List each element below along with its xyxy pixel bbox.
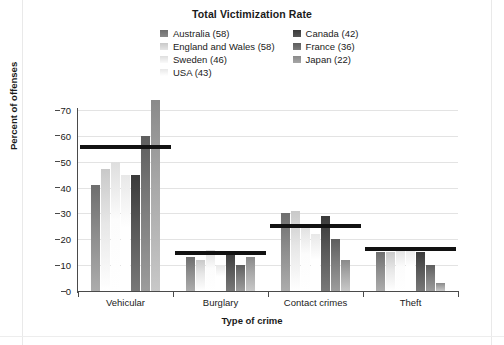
legend-item[interactable]: France (36) — [293, 41, 359, 52]
y-axis-tick-mark — [55, 239, 60, 240]
bar[interactable] — [131, 175, 140, 291]
y-axis-tick-mark — [55, 110, 60, 111]
legend-item-label: Canada (42) — [306, 28, 359, 39]
page-edge-rule-bottom — [0, 336, 504, 337]
group-mean-line — [365, 247, 456, 251]
legend-swatch-icon — [160, 69, 168, 76]
legend-swatch-icon — [160, 56, 168, 63]
y-axis-tick-label: 60 — [60, 130, 78, 141]
bar[interactable] — [406, 247, 415, 291]
legend-item[interactable]: Canada (42) — [293, 28, 359, 39]
x-axis-group-separator — [268, 291, 269, 297]
bar-group — [173, 110, 268, 291]
y-axis-title: Percent of offenses — [8, 62, 19, 150]
x-axis-tick-label: Burglary — [173, 297, 268, 308]
legend-item-label: Australia (58) — [173, 28, 230, 39]
chart-title: Total Victimization Rate — [0, 8, 504, 20]
x-axis-group-separator — [78, 291, 79, 297]
y-axis-tick-label: 0 — [66, 286, 78, 297]
bar[interactable] — [331, 239, 340, 291]
legend-swatch-icon — [160, 30, 168, 37]
x-axis-tick-label: Theft — [363, 297, 458, 308]
bar[interactable] — [436, 283, 445, 291]
y-axis-tick-label: 50 — [60, 156, 78, 167]
y-axis-tick-label: 10 — [60, 260, 78, 271]
plot-area: 010203040506070 — [78, 110, 458, 291]
x-axis-tick-label: Vehicular — [78, 297, 173, 308]
bar[interactable] — [311, 234, 320, 291]
y-axis-tick-mark — [55, 161, 60, 162]
group-mean-line — [175, 251, 266, 255]
bar[interactable] — [186, 257, 195, 291]
y-axis-tick-label: 30 — [60, 208, 78, 219]
page-edge-rule-right — [491, 0, 492, 345]
y-axis-tick-label: 20 — [60, 234, 78, 245]
legend-item-label: England and Wales (58) — [173, 41, 275, 52]
legend-column-right: Canada (42) France (36) Japan (22) — [293, 28, 359, 78]
x-axis-tick-label: Contact crimes — [268, 297, 363, 308]
bar[interactable] — [246, 257, 255, 291]
bar[interactable] — [141, 136, 150, 291]
legend-item[interactable]: Japan (22) — [293, 54, 359, 65]
bar[interactable] — [301, 224, 310, 291]
y-axis-tick-mark — [55, 135, 60, 136]
legend-item-label: France (36) — [306, 41, 355, 52]
bar[interactable] — [376, 252, 385, 291]
page-edge-rule-left — [22, 0, 23, 345]
legend-column-left: Australia (58) England and Wales (58) Sw… — [160, 28, 275, 78]
bar[interactable] — [416, 252, 425, 291]
y-axis-tick-mark — [55, 213, 60, 214]
bar[interactable] — [196, 260, 205, 291]
chart-legend: Australia (58) England and Wales (58) Sw… — [160, 28, 358, 78]
y-axis-tick-mark — [55, 187, 60, 188]
y-axis-tick-mark — [55, 265, 60, 266]
group-mean-line — [270, 224, 361, 228]
legend-item[interactable]: USA (43) — [160, 67, 275, 78]
legend-item-label: Japan (22) — [306, 54, 351, 65]
bar[interactable] — [426, 265, 435, 291]
bar-group — [363, 110, 458, 291]
bar[interactable] — [151, 100, 160, 291]
x-axis-group-separator — [363, 291, 364, 297]
bar-group — [78, 110, 173, 291]
x-axis-title: Type of crime — [0, 315, 504, 326]
legend-item-label: Sweden (46) — [173, 54, 227, 65]
legend-swatch-icon — [293, 56, 301, 63]
bar[interactable] — [91, 185, 100, 291]
y-axis-tick-label: 40 — [60, 182, 78, 193]
x-axis-group-separator — [458, 291, 459, 297]
bar[interactable] — [386, 252, 395, 291]
bar[interactable] — [101, 169, 110, 291]
bar[interactable] — [396, 247, 405, 291]
group-mean-line — [80, 145, 171, 149]
bar[interactable] — [111, 162, 120, 291]
legend-swatch-icon — [293, 30, 301, 37]
legend-item[interactable]: Australia (58) — [160, 28, 275, 39]
x-axis-group-separator — [173, 291, 174, 297]
bar[interactable] — [216, 265, 225, 291]
legend-swatch-icon — [160, 43, 168, 50]
bar[interactable] — [226, 252, 235, 291]
y-axis-tick-mark — [61, 291, 66, 292]
bar[interactable] — [121, 175, 130, 291]
legend-swatch-icon — [293, 43, 301, 50]
y-axis-tick-label: 70 — [60, 105, 78, 116]
legend-item[interactable]: Sweden (46) — [160, 54, 275, 65]
legend-item-label: USA (43) — [173, 67, 212, 78]
bar[interactable] — [206, 250, 215, 291]
bar[interactable] — [341, 260, 350, 291]
legend-item[interactable]: England and Wales (58) — [160, 41, 275, 52]
bar[interactable] — [236, 265, 245, 291]
bar-group — [268, 110, 363, 291]
